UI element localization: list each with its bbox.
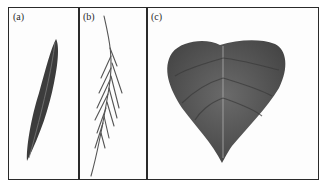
cordate-leaf-image [147, 8, 318, 178]
lanceolate-leaf-image [9, 8, 78, 178]
needle-branch-image [79, 8, 146, 178]
leaf-figure: (a) (b) [8, 7, 319, 180]
panel-b: (b) [79, 8, 146, 179]
panel-c: (c) [147, 8, 318, 179]
panel-a: (a) [9, 8, 78, 179]
